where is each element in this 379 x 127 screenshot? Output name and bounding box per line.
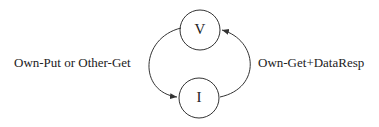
state-v-label: V	[180, 21, 220, 38]
state-i-label: I	[179, 89, 219, 106]
edge-label-v-to-i: Own-Put or Other-Get	[14, 55, 131, 71]
edge-i-to-v	[220, 30, 250, 97]
edge-v-to-i	[149, 28, 181, 97]
edge-label-i-to-v: Own-Get+DataResp	[258, 55, 364, 71]
